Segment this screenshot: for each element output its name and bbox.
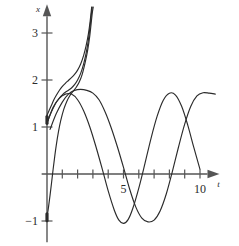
x-axis-arrowhead <box>43 4 51 16</box>
t-axis-name-label: t <box>217 179 220 189</box>
labels-layer: 510−1123xt <box>25 4 220 228</box>
axes-layer <box>42 4 220 242</box>
curve-oscillating-curve-a <box>48 93 200 224</box>
curve-rising-curve-from-below <box>47 7 93 217</box>
t-axis-tick-label: 5 <box>121 182 127 196</box>
solution-curves-figure: 510−1123xt <box>0 0 239 246</box>
curve-oscillating-curve-b <box>50 89 215 222</box>
plot-canvas: 510−1123xt <box>0 0 239 246</box>
x-axis-tick-label: 2 <box>32 73 38 87</box>
curves-layer <box>47 7 215 223</box>
x-axis-tick-label: 3 <box>32 26 38 40</box>
t-axis-arrowhead <box>207 170 219 178</box>
t-axis-tick-label: 10 <box>194 182 206 196</box>
x-axis-name-label: x <box>35 4 40 14</box>
x-axis-tick-label: −1 <box>25 214 38 228</box>
x-axis-tick-label: 1 <box>32 120 38 134</box>
